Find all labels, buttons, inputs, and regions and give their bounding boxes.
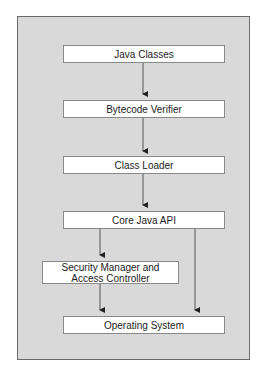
node-label: Operating System: [104, 320, 184, 331]
node-java-classes: Java Classes: [63, 45, 225, 63]
node-bytecode-verifier: Bytecode Verifier: [63, 100, 225, 118]
node-label: Java Classes: [114, 49, 173, 60]
node-core-java-api: Core Java API: [63, 211, 225, 229]
node-label: Security Manager and Access Controller: [45, 262, 176, 284]
node-label: Core Java API: [112, 215, 176, 226]
node-label: Bytecode Verifier: [106, 104, 182, 115]
node-operating-system: Operating System: [63, 316, 225, 334]
node-security-manager: Security Manager and Access Controller: [42, 261, 179, 284]
node-label: Class Loader: [115, 160, 174, 171]
node-class-loader: Class Loader: [63, 156, 225, 174]
